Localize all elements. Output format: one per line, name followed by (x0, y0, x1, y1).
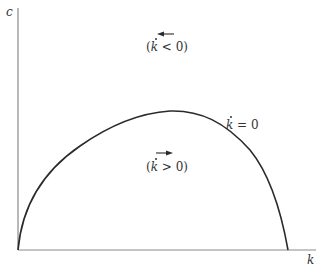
curve-label-var: k (226, 119, 233, 131)
lower-region-var: k (151, 161, 158, 173)
curve-label: k = 0 (226, 119, 259, 131)
upper-region-var: k (151, 41, 158, 53)
upper-region-label: (k < 0) (146, 41, 188, 53)
right-arrow-icon (156, 151, 173, 156)
y-axis-label: c (6, 6, 13, 18)
phase-diagram: c k k = 0 (k < 0) (k > 0) (0, 0, 320, 269)
lower-region-label: (k > 0) (146, 161, 188, 173)
x-axis-label: k (307, 254, 314, 266)
upper-region-rest: < 0) (158, 40, 188, 54)
left-arrow-icon (157, 32, 174, 37)
curve-label-rest: = 0 (233, 118, 258, 132)
lower-region-rest: > 0) (158, 160, 188, 174)
